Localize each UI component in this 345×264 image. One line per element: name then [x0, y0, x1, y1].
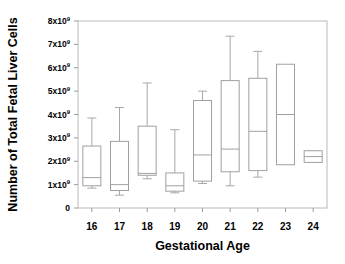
boxplot-figure: 01x1092x1093x1094x1095x1096x1097x1098x10…: [0, 0, 345, 264]
box-plot-23: [277, 64, 295, 165]
y-tick-label: 6x109: [48, 62, 71, 73]
box-iqr: [111, 141, 129, 190]
box-plot-20: [194, 91, 212, 183]
x-tick-label-23: 23: [280, 221, 292, 232]
chart-canvas: 01x1092x1093x1094x1095x1096x1097x1098x10…: [0, 0, 345, 264]
box-plot-21: [221, 36, 239, 186]
x-axis-title: Gestational Age: [155, 239, 250, 253]
y-tick-label: 5x109: [48, 86, 71, 97]
box-plot-22: [249, 51, 267, 177]
box-iqr: [221, 81, 239, 172]
box-plot-19: [166, 130, 184, 193]
box-iqr: [138, 126, 156, 175]
y-tick-label: 4x109: [48, 109, 71, 120]
x-tick-label-19: 19: [169, 221, 181, 232]
box-iqr: [194, 100, 212, 181]
box-plot-16: [83, 118, 101, 188]
x-tick-label-20: 20: [197, 221, 209, 232]
x-tick-label-21: 21: [225, 221, 237, 232]
box-iqr: [83, 146, 101, 186]
y-tick-label: 1x109: [48, 179, 71, 190]
y-tick-label: 2x109: [48, 156, 71, 167]
y-tick-label: 3x109: [48, 132, 71, 143]
box-plot-17: [111, 107, 129, 195]
x-tick-label-16: 16: [86, 221, 98, 232]
y-axis-title: Number of Total Fetal Liver Cells: [6, 17, 20, 211]
box-plot-24: [304, 151, 322, 163]
x-tick-label-24: 24: [308, 221, 320, 232]
y-tick-label: 0: [65, 203, 70, 213]
box-iqr: [249, 78, 267, 170]
x-tick-label-18: 18: [142, 221, 154, 232]
y-tick-label: 8x109: [48, 16, 71, 27]
x-tick-label-22: 22: [252, 221, 264, 232]
x-tick-label-17: 17: [114, 221, 126, 232]
box-plot-18: [138, 83, 156, 179]
y-tick-label: 7x109: [48, 39, 71, 50]
box-iqr: [166, 173, 184, 191]
